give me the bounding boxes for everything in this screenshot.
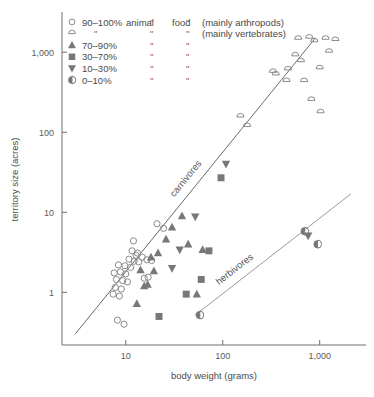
- marker-half-left: [301, 227, 305, 235]
- point-marker: [133, 299, 141, 307]
- point-marker: [130, 238, 136, 244]
- axis-titles: body weight (grams)territory size (acres…: [9, 138, 257, 381]
- marker-half-right: [200, 311, 204, 319]
- point-marker: [115, 262, 121, 268]
- point-marker: [178, 211, 186, 219]
- scatter-plot-canvas: 101001,0001101001,000 carnivoresherbivor…: [0, 0, 374, 397]
- marker-half-left: [196, 311, 200, 319]
- trend-label-herbivores: herbivores: [213, 251, 255, 287]
- point-marker: [301, 78, 308, 82]
- legend-label-4: 10–30%: [82, 63, 117, 74]
- x-axis-title: body weight (grams): [171, 370, 257, 381]
- point-marker: [113, 276, 119, 282]
- y-tick-label: 1,000: [31, 48, 54, 58]
- legend-ditto-animal-2: ": [150, 40, 153, 51]
- point-marker: [292, 52, 299, 56]
- point-marker: [205, 247, 212, 254]
- point-marker: [322, 36, 329, 40]
- series-half-filled-circle: [196, 227, 322, 319]
- legend-ditto-food-1: ": [186, 28, 189, 39]
- point-marker: [121, 321, 127, 327]
- legend-marker-half-filled-circle: [68, 76, 76, 84]
- marker-half-right: [318, 240, 322, 248]
- series-semicircle: [237, 34, 339, 126]
- point-marker: [198, 276, 205, 283]
- point-marker: [162, 235, 170, 243]
- legend-marker-triangle-down: [68, 65, 76, 72]
- point-marker: [150, 266, 158, 274]
- point-marker: [218, 174, 225, 181]
- legend-marker-open-circle: [69, 19, 75, 25]
- point-marker: [136, 266, 144, 274]
- point-marker: [297, 58, 304, 62]
- legend-ditto-animal-1: ": [150, 28, 153, 39]
- y-tick-label: 1: [49, 288, 54, 298]
- point-marker: [154, 249, 162, 257]
- point-marker: [283, 78, 290, 82]
- legend-ditto-food-0: ": [186, 17, 189, 28]
- legend-ditto-food-3: ": [186, 51, 189, 62]
- legend-label-0: 90–100%: [82, 17, 123, 28]
- marker-half-left: [314, 240, 318, 248]
- point-marker: [237, 113, 244, 117]
- territory-size-vs-body-weight-chart: 101001,0001101001,000 carnivoresherbivor…: [0, 0, 374, 397]
- legend-ditto-animal-4: ": [150, 63, 153, 74]
- point-marker: [316, 65, 323, 69]
- x-tick-label: 1,000: [308, 351, 331, 361]
- legend-marker-square: [69, 54, 75, 60]
- point-marker: [168, 265, 176, 273]
- point-marker: [118, 286, 124, 292]
- marker-half-left: [68, 76, 72, 84]
- point-marker: [196, 311, 204, 319]
- marker-half-right: [72, 76, 76, 84]
- trend-label-carnivores: carnivores: [167, 158, 203, 199]
- legend: animalfood(mainly arthropods)(mainly ver…: [68, 17, 286, 86]
- point-marker: [116, 293, 122, 299]
- point-marker: [145, 274, 151, 280]
- point-marker: [222, 161, 230, 169]
- legend-ditto-food-2: ": [186, 40, 189, 51]
- point-marker: [154, 221, 160, 227]
- y-tick-label: 100: [39, 128, 54, 138]
- legend-note-vertebrates: (mainly vertebrates): [202, 28, 286, 39]
- point-marker: [314, 240, 322, 248]
- trend-lines: carnivoresherbivores: [75, 38, 351, 334]
- legend-ditto-animal-5: ": [150, 75, 153, 86]
- point-marker: [168, 223, 176, 231]
- y-tick-label: 10: [44, 208, 54, 218]
- legend-ditto-animal-3: ": [150, 51, 153, 62]
- legend-note-arthropods: (mainly arthropods): [202, 17, 284, 28]
- legend-ditto-food-4: ": [186, 63, 189, 74]
- point-marker: [308, 97, 315, 101]
- y-axis-title: territory size (acres): [9, 138, 20, 222]
- legend-marker-triangle-up: [68, 41, 76, 48]
- legend-ditto-food-5: ": [186, 75, 189, 86]
- point-marker: [301, 227, 309, 235]
- point-marker: [332, 37, 339, 41]
- series-open-circle: [110, 221, 167, 328]
- legend-ditto-label-1: ": [94, 28, 97, 39]
- point-marker: [295, 36, 302, 40]
- point-marker: [141, 275, 147, 281]
- point-marker: [184, 240, 192, 248]
- point-marker: [111, 270, 117, 276]
- point-marker: [110, 291, 116, 297]
- point-marker: [183, 291, 190, 298]
- legend-label-5: 0–10%: [82, 75, 112, 86]
- point-marker: [191, 214, 199, 222]
- point-marker: [306, 34, 313, 38]
- x-tick-label: 100: [215, 351, 230, 361]
- legend-marker-semicircle: [69, 30, 76, 33]
- trend-line-herbivores: [195, 194, 351, 315]
- point-marker: [114, 317, 120, 323]
- legend-label-2: 70–90%: [82, 40, 117, 51]
- legend-ditto-animal-0: ": [150, 17, 153, 28]
- point-marker: [193, 290, 201, 298]
- point-marker: [176, 247, 184, 255]
- point-marker: [326, 49, 333, 53]
- legend-label-3: 30–70%: [82, 51, 117, 62]
- point-marker: [156, 313, 163, 320]
- point-marker: [317, 109, 324, 113]
- x-tick-label: 10: [121, 351, 131, 361]
